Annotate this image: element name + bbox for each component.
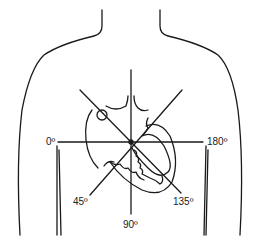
axis-label-0: 0º: [46, 137, 55, 147]
left-arm-inner-line-2: [59, 150, 61, 235]
axis-label-45: 45º: [73, 197, 88, 207]
aortic-arch-right: [134, 96, 148, 111]
heart-upper-left-contour: [86, 110, 98, 168]
axis-label-90: 90º: [123, 220, 138, 230]
axis-label-135: 135º: [173, 197, 193, 207]
aortic-arch-left: [106, 96, 128, 109]
axis-center: [129, 140, 133, 144]
right-arm-inner-line-2: [206, 150, 208, 235]
cardiac-axis-diagram: 0º 180º 45º 135º 90º: [0, 0, 257, 247]
axis-label-180: 180º: [207, 137, 227, 147]
heart-septum-wave: [134, 150, 163, 184]
heart-lower-wave: [110, 162, 144, 180]
diagram-drawing: [0, 0, 257, 247]
heart-small-vessel: [97, 110, 107, 120]
